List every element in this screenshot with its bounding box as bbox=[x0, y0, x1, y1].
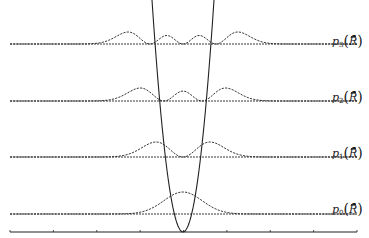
label-p0: p0(R̄) bbox=[332, 201, 363, 217]
label-p3: p3(R̄) bbox=[332, 33, 363, 49]
probability-density-curves bbox=[10, 32, 357, 214]
label-p2: p2(R̄) bbox=[332, 89, 363, 105]
potential-parabola bbox=[150, 0, 216, 232]
energy-level-baselines bbox=[10, 44, 357, 214]
label-p1: p1(R̄) bbox=[332, 145, 363, 161]
oscillator-diagram bbox=[0, 0, 369, 238]
